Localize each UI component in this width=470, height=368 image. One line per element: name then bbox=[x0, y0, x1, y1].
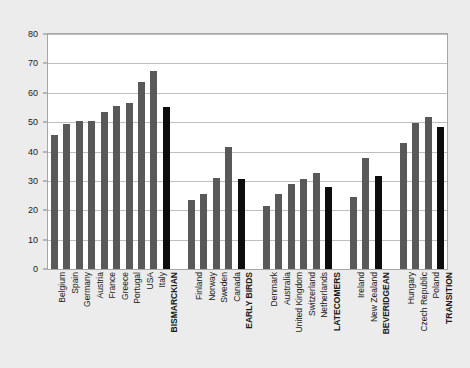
group-summary-label: BISMARCKIAN bbox=[170, 272, 179, 332]
category-label: Denmark bbox=[270, 272, 279, 306]
category-label: Portugal bbox=[133, 272, 142, 304]
bar bbox=[51, 135, 58, 269]
group-summary-bar bbox=[437, 127, 444, 269]
group-summary-bar bbox=[163, 107, 170, 269]
category-label: Spain bbox=[71, 272, 80, 294]
bar bbox=[150, 71, 157, 269]
y-tick-label: 20 bbox=[28, 206, 38, 215]
y-tick-mark bbox=[43, 63, 47, 64]
category-label: Czech Republic bbox=[420, 272, 429, 332]
bar bbox=[225, 147, 232, 269]
category-label: Finland bbox=[195, 272, 204, 300]
y-tick-mark bbox=[43, 180, 47, 181]
y-tick-mark bbox=[43, 34, 47, 35]
category-label: Belgium bbox=[58, 272, 67, 303]
y-tick-label: 60 bbox=[28, 88, 38, 97]
category-label: USA bbox=[146, 272, 155, 289]
category-label: Norway bbox=[208, 272, 217, 301]
category-label: United Kingdom bbox=[295, 272, 304, 332]
y-axis: 01020304050607080 bbox=[0, 33, 47, 270]
bar bbox=[300, 179, 307, 269]
category-label: Ireland bbox=[357, 272, 366, 298]
category-label: Poland bbox=[432, 272, 441, 298]
category-label: Germany bbox=[83, 272, 92, 307]
bar bbox=[362, 158, 369, 269]
group-summary-label: BEVERIDGEAN bbox=[382, 272, 391, 334]
category-label: New Zealand bbox=[370, 272, 379, 322]
group-summary-label: EARLY BIRDS bbox=[245, 272, 254, 329]
category-label: Italy bbox=[158, 272, 167, 288]
bars-layer bbox=[48, 34, 447, 269]
group-summary-bar bbox=[325, 187, 332, 269]
y-tick-label: 40 bbox=[28, 147, 38, 156]
y-tick-label: 0 bbox=[33, 265, 38, 274]
bar bbox=[113, 106, 120, 269]
category-labels: BelgiumSpainGermanyAustriaFranceGreecePo… bbox=[48, 272, 447, 366]
y-tick-mark bbox=[43, 122, 47, 123]
bar bbox=[263, 206, 270, 269]
bar bbox=[288, 184, 295, 269]
bar bbox=[200, 194, 207, 269]
bar-chart: 01020304050607080 BelgiumSpainGermanyAus… bbox=[0, 0, 470, 368]
category-label: Sweden bbox=[220, 272, 229, 303]
bar bbox=[101, 112, 108, 269]
y-tick-label: 10 bbox=[28, 235, 38, 244]
bar bbox=[425, 117, 432, 269]
category-label: Canada bbox=[233, 272, 242, 302]
bar bbox=[275, 194, 282, 269]
category-label: Greece bbox=[121, 272, 130, 300]
y-tick-label: 80 bbox=[28, 30, 38, 39]
bar bbox=[188, 200, 195, 269]
category-label: France bbox=[108, 272, 117, 298]
bar bbox=[400, 143, 407, 269]
y-tick-label: 70 bbox=[28, 59, 38, 68]
category-label: Australia bbox=[283, 272, 292, 305]
bar bbox=[138, 82, 145, 269]
bar bbox=[313, 173, 320, 269]
y-tick-mark bbox=[43, 269, 47, 270]
y-tick-mark bbox=[43, 239, 47, 240]
group-summary-bar bbox=[375, 176, 382, 269]
group-summary-label: TRANSITION bbox=[445, 272, 454, 324]
category-label: Austria bbox=[96, 272, 105, 298]
category-label: Switzerland bbox=[308, 272, 317, 316]
bar bbox=[412, 123, 419, 269]
bar bbox=[76, 121, 83, 269]
y-tick-mark bbox=[43, 151, 47, 152]
y-tick-label: 30 bbox=[28, 176, 38, 185]
bar bbox=[63, 124, 70, 269]
group-summary-bar bbox=[238, 179, 245, 269]
category-label: Netherlands bbox=[320, 272, 329, 318]
bar bbox=[213, 178, 220, 269]
bar bbox=[126, 103, 133, 269]
y-tick-mark bbox=[43, 92, 47, 93]
bar bbox=[350, 197, 357, 269]
category-label: Hungary bbox=[407, 272, 416, 304]
y-tick-mark bbox=[43, 210, 47, 211]
bar bbox=[88, 121, 95, 269]
group-summary-label: LATECOMERS bbox=[333, 272, 342, 331]
y-tick-label: 50 bbox=[28, 118, 38, 127]
